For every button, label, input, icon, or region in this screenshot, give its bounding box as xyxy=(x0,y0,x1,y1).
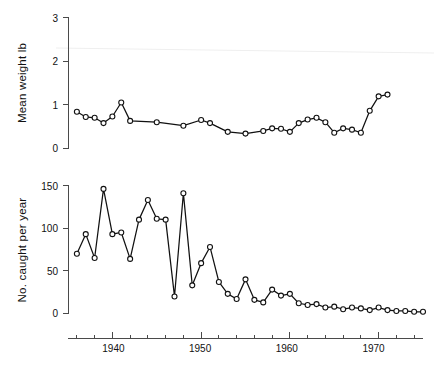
top-ytick-label-0: 0 xyxy=(52,143,58,154)
data-point-marker xyxy=(154,216,159,221)
bottom-ytick-label-100: 100 xyxy=(41,223,58,234)
figure-container: 3 2 1 0 Mean weight lb 150 100 50 0 No. … xyxy=(0,0,434,372)
data-point-marker xyxy=(314,115,319,120)
data-point-marker xyxy=(403,308,408,313)
data-point-marker xyxy=(350,127,355,132)
data-point-marker xyxy=(332,304,337,309)
bottom-series-group xyxy=(74,186,425,314)
bottom-ytick-label-50: 50 xyxy=(47,266,59,277)
bottom-panel: 150 100 50 0 No. caught per year xyxy=(16,181,426,320)
data-point-marker xyxy=(83,114,88,119)
bottom-series-line xyxy=(77,189,423,312)
data-point-marker xyxy=(305,117,310,122)
data-point-marker xyxy=(323,305,328,310)
top-ytick-label-1: 1 xyxy=(52,100,58,111)
data-point-marker xyxy=(208,244,213,249)
data-point-marker xyxy=(332,130,337,135)
xtick-label-1960: 1960 xyxy=(276,343,299,354)
data-point-marker xyxy=(119,230,124,235)
bottom-ytick-label-150: 150 xyxy=(41,181,58,192)
data-point-marker xyxy=(181,123,186,128)
data-point-marker xyxy=(83,232,88,237)
data-point-marker xyxy=(154,120,159,125)
data-point-marker xyxy=(367,108,372,113)
data-point-marker xyxy=(412,309,417,314)
data-point-marker xyxy=(376,94,381,99)
bottom-y-axis-title: No. caught per year xyxy=(16,198,28,303)
data-point-marker xyxy=(110,114,115,119)
data-point-marker xyxy=(128,256,133,261)
data-point-marker xyxy=(234,296,239,301)
data-point-marker xyxy=(243,277,248,282)
data-point-marker xyxy=(119,100,124,105)
data-point-marker xyxy=(190,283,195,288)
data-point-marker xyxy=(92,256,97,261)
data-point-marker xyxy=(101,186,106,191)
data-point-marker xyxy=(208,121,213,126)
data-point-marker xyxy=(101,121,106,126)
data-point-marker xyxy=(225,129,230,134)
data-point-marker xyxy=(261,128,266,133)
data-point-marker xyxy=(252,297,257,302)
data-point-marker xyxy=(225,291,230,296)
top-ytick-label-2: 2 xyxy=(52,56,58,67)
data-point-marker xyxy=(279,126,284,131)
data-point-marker xyxy=(376,305,381,310)
xtick-label-1950: 1950 xyxy=(189,343,212,354)
data-point-marker xyxy=(287,291,292,296)
top-ytick-label-3: 3 xyxy=(52,13,58,24)
data-point-marker xyxy=(74,109,79,114)
data-point-marker xyxy=(199,118,204,123)
data-point-marker xyxy=(137,217,142,222)
data-point-marker xyxy=(181,191,186,196)
data-point-marker xyxy=(367,308,372,313)
data-point-marker xyxy=(92,115,97,120)
data-point-marker xyxy=(74,251,79,256)
data-point-marker xyxy=(172,294,177,299)
top-y-axis-title: Mean weight lb xyxy=(16,43,28,123)
data-point-marker xyxy=(296,121,301,126)
data-point-marker xyxy=(385,308,390,313)
data-point-marker xyxy=(296,301,301,306)
data-point-marker xyxy=(394,308,399,313)
x-axis-group: 1940 1950 1960 1970 xyxy=(68,332,423,354)
data-point-marker xyxy=(279,293,284,298)
xtick-label-1970: 1970 xyxy=(362,343,385,354)
data-point-marker xyxy=(314,302,319,307)
scan-artifact-line xyxy=(56,48,434,53)
data-point-marker xyxy=(216,279,221,284)
data-point-marker xyxy=(145,198,150,203)
bottom-ytick-label-0: 0 xyxy=(52,308,58,319)
data-point-marker xyxy=(358,130,363,135)
data-point-marker xyxy=(341,307,346,312)
top-panel: 3 2 1 0 Mean weight lb xyxy=(16,13,390,155)
data-point-marker xyxy=(287,129,292,134)
data-point-marker xyxy=(305,302,310,307)
data-point-marker xyxy=(421,309,426,314)
data-point-marker xyxy=(199,261,204,266)
top-series-group xyxy=(74,92,390,136)
two-panel-line-chart: 3 2 1 0 Mean weight lb 150 100 50 0 No. … xyxy=(0,0,434,372)
data-point-marker xyxy=(358,306,363,311)
data-point-marker xyxy=(163,217,168,222)
data-point-marker xyxy=(385,92,390,97)
data-point-marker xyxy=(270,126,275,131)
data-point-marker xyxy=(243,131,248,136)
x-axis-ticks xyxy=(77,332,414,339)
data-point-marker xyxy=(350,305,355,310)
data-point-marker xyxy=(341,126,346,131)
data-point-marker xyxy=(261,300,266,305)
top-series-markers xyxy=(74,92,390,136)
xtick-label-1940: 1940 xyxy=(102,343,125,354)
data-point-marker xyxy=(128,118,133,123)
data-point-marker xyxy=(270,287,275,292)
data-point-marker xyxy=(323,120,328,125)
data-point-marker xyxy=(110,232,115,237)
